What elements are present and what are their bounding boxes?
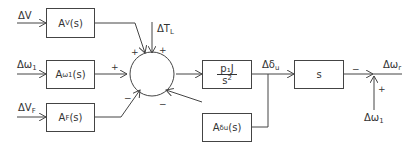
- input-delta-tl: ΔTL: [157, 24, 174, 36]
- plant-denominator: s2: [222, 75, 232, 86]
- sign-sum-bottom-right: −: [159, 100, 167, 109]
- block-derivative: s: [294, 60, 344, 89]
- sign-out-plus: +: [378, 85, 386, 94]
- sign-sum-top-right: +: [159, 46, 167, 55]
- signal-delta-omega-r: Δωr: [383, 60, 401, 72]
- block-plant: p₁J s2: [202, 60, 252, 89]
- block-af: AF (s): [46, 103, 95, 132]
- sign-sum-top-left: +: [131, 48, 139, 57]
- block-adu: Aδu(s): [202, 113, 252, 142]
- sign-sum-bottom-left: −: [124, 94, 132, 103]
- input-delta-v: ΔV: [18, 11, 32, 23]
- sign-sum-left: +: [111, 63, 119, 72]
- signal-delta-delta-u: Δδu: [262, 60, 279, 72]
- sign-out-minus: −: [352, 65, 360, 74]
- input-delta-omega-1-bottom: Δω1: [364, 113, 384, 125]
- block-av: AV (s): [46, 8, 95, 38]
- input-delta-vf: ΔVF: [18, 103, 36, 115]
- input-delta-omega-1: Δω1: [17, 60, 37, 72]
- block-aw1: Aω1(s): [46, 60, 95, 89]
